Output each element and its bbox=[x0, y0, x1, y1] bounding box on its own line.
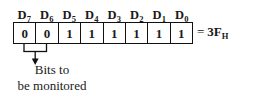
bit-cell-d0: 1 bbox=[171, 23, 192, 43]
hex-base-subscript: H bbox=[222, 31, 229, 41]
callout-caption: Bits to be monitored bbox=[0, 62, 104, 94]
bit-label-d3-name: D bbox=[108, 9, 117, 22]
bit-cell-d5: 1 bbox=[59, 23, 81, 43]
callout-caption-line-2: be monitored bbox=[0, 78, 104, 94]
equals-sign: = bbox=[197, 24, 204, 39]
bit-label-d4-name: D bbox=[85, 9, 94, 22]
register-box: 0 0 1 1 1 1 1 1 bbox=[13, 22, 193, 44]
bit-cell-d2: 1 bbox=[126, 23, 148, 43]
bit-label-d0-name: D bbox=[175, 9, 184, 22]
callout-caption-line-1: Bits to bbox=[0, 62, 104, 78]
bit-cell-d7: 0 bbox=[14, 23, 36, 43]
bit-cell-d4: 1 bbox=[81, 23, 103, 43]
hex-value-annotation: =3FH bbox=[197, 25, 228, 38]
bit-label-d2: D2 bbox=[126, 1, 149, 21]
bit-label-d0: D0 bbox=[171, 1, 194, 21]
hex-value: 3F bbox=[207, 24, 221, 39]
bit-label-d5-name: D bbox=[63, 9, 72, 22]
bit-label-d4: D4 bbox=[81, 1, 104, 21]
bit-cell-d1: 1 bbox=[148, 23, 170, 43]
bit-label-d2-name: D bbox=[130, 9, 139, 22]
bit-label-row: D7 D6 D5 D4 D3 D2 D1 D0 bbox=[13, 1, 193, 21]
bit-label-d1-name: D bbox=[153, 9, 162, 22]
bit-label-d1: D1 bbox=[148, 1, 171, 21]
bit-cell-d6: 0 bbox=[36, 23, 58, 43]
bit-label-d7-name: D bbox=[18, 9, 27, 22]
bit-cell-d3: 1 bbox=[104, 23, 126, 43]
bit-label-d6: D6 bbox=[36, 1, 59, 21]
bit-label-d5: D5 bbox=[58, 1, 81, 21]
bit-label-d7: D7 bbox=[13, 1, 36, 21]
bit-label-d6-name: D bbox=[40, 9, 49, 22]
bit-register-diagram: D7 D6 D5 D4 D3 D2 D1 D0 0 0 1 1 1 1 1 1 bbox=[0, 0, 253, 97]
bit-label-d3: D3 bbox=[103, 1, 126, 21]
